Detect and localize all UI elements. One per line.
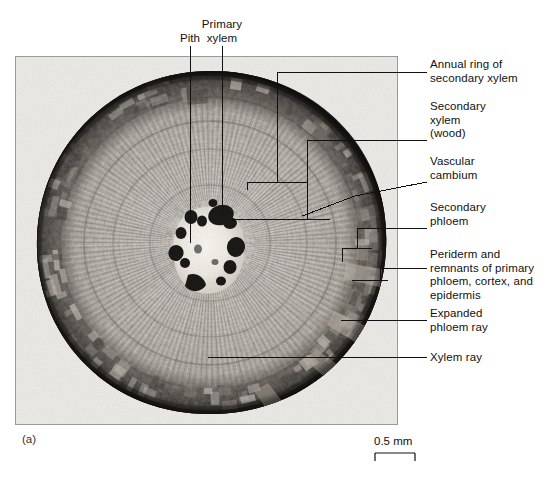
label-annual-ring: Annual ring of secondary xylem (430, 58, 548, 85)
label-primary-xylem: Primary xylem (196, 18, 248, 45)
label-xylem-ray: Xylem ray (430, 351, 542, 365)
micrograph-panel (15, 56, 398, 425)
label-periderm: Periderm and remnants of primary phloem,… (430, 248, 548, 302)
panel-letter: (a) (22, 433, 36, 445)
scale-bar-label: 0.5 mm (374, 435, 412, 447)
label-expanded-phloem-ray: Expanded phloem ray (430, 307, 542, 334)
label-secondary-xylem: Secondary xylem (wood) (430, 100, 542, 141)
label-secondary-phloem: Secondary phloem (430, 201, 542, 228)
label-vascular-cambium: Vascular cambium (430, 155, 542, 182)
stem-cross-section-image (16, 57, 397, 424)
